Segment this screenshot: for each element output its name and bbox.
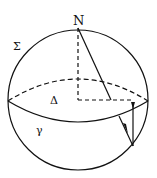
- sphere-diagram: N Σ Δ γ: [0, 0, 157, 178]
- equator-front: [8, 101, 148, 122]
- arrow-line: [119, 116, 133, 146]
- label-sphere: Σ: [13, 40, 21, 53]
- projection-line: [78, 28, 111, 100]
- label-curve: γ: [36, 124, 43, 137]
- label-north: N: [73, 13, 84, 28]
- label-plane: Δ: [50, 94, 58, 107]
- equator-back-dashed: [8, 79, 148, 101]
